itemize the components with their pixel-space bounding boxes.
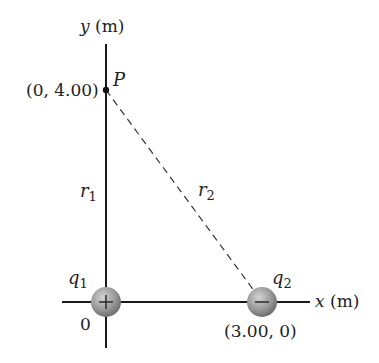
- charge-q1: [91, 287, 121, 317]
- point-p-dot: [103, 87, 109, 93]
- y-axis-label: y (m): [79, 16, 124, 36]
- electric-potential-diagram: y (m) P (0, 4.00) r1 r2 q1 0 q2 (3.00, 0…: [0, 0, 379, 363]
- charge-q2: [247, 287, 277, 317]
- r1-label: r1: [80, 180, 97, 204]
- x-axis-label: x (m): [315, 291, 359, 311]
- point-p-coords: (0, 4.00): [26, 80, 99, 100]
- point-p-label: P: [112, 69, 126, 90]
- origin-label: 0: [80, 314, 91, 334]
- r2-dashed-line: [106, 90, 255, 292]
- q2-label: q2: [272, 267, 292, 291]
- r2-label: r2: [198, 179, 215, 203]
- q1-label: q1: [68, 267, 88, 291]
- q2-coords: (3.00, 0): [224, 321, 297, 341]
